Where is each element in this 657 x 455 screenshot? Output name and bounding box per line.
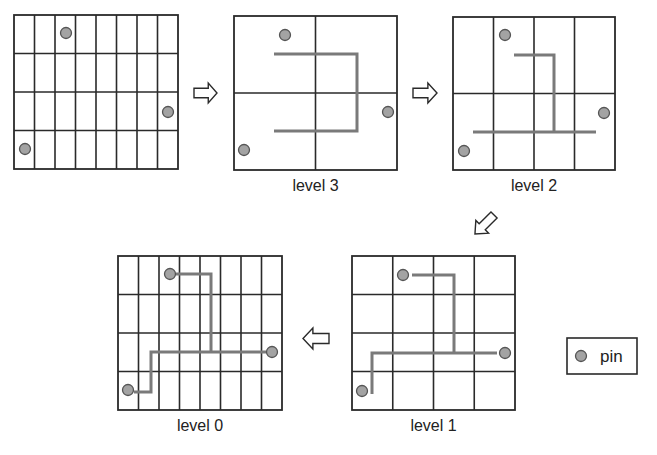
pin-icon bbox=[599, 108, 610, 119]
pin-icon bbox=[123, 385, 134, 396]
arrow-level1-to-level0-icon bbox=[303, 328, 329, 349]
arrow-level2-to-level1-icon bbox=[469, 209, 501, 241]
panels: level 3level 2level 1level 0 bbox=[14, 15, 615, 434]
panel-label: level 2 bbox=[511, 177, 557, 194]
pin-icon bbox=[357, 386, 368, 397]
arrow-level3-to-level2-icon bbox=[413, 83, 437, 103]
pin-icon bbox=[239, 145, 250, 156]
pin-icon bbox=[20, 144, 31, 155]
pin-icon bbox=[163, 107, 174, 118]
pin-icon bbox=[61, 28, 72, 39]
arrow-initial-to-level3-icon bbox=[194, 83, 217, 103]
pin-icon bbox=[267, 347, 278, 358]
panel-level3: level 3 bbox=[234, 16, 397, 194]
legend: pin bbox=[567, 338, 637, 374]
panel-initial bbox=[14, 15, 178, 169]
panel-label: level 0 bbox=[177, 417, 223, 434]
pin-icon bbox=[398, 270, 409, 281]
pin-icon bbox=[383, 107, 394, 118]
routing-diagram: level 3level 2level 1level 0 pin bbox=[0, 0, 657, 455]
panel-label: level 3 bbox=[292, 177, 338, 194]
pin-icon bbox=[500, 348, 511, 359]
panel-label: level 1 bbox=[410, 417, 456, 434]
pin-icon bbox=[459, 146, 470, 157]
panel-level2: level 2 bbox=[453, 17, 615, 194]
panel-level1: level 1 bbox=[352, 256, 515, 434]
panel-level0: level 0 bbox=[118, 256, 282, 434]
pin-icon bbox=[165, 269, 176, 280]
pin-icon bbox=[576, 351, 587, 362]
pin-icon bbox=[280, 30, 291, 41]
legend-label-pin: pin bbox=[600, 347, 623, 366]
pin-icon bbox=[500, 30, 511, 41]
